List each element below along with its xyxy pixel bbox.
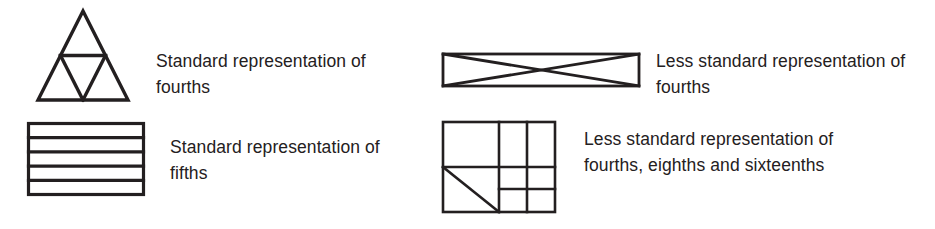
rectangle-mixed-fractions-figure — [441, 119, 559, 215]
triangle-midline-left — [61, 56, 84, 101]
triangle-midline-right — [83, 56, 106, 101]
caption-fourths-triangle: Standard representation of fourths — [156, 48, 401, 100]
mixed-diagonal-lower-left — [443, 167, 499, 212]
rectangle-x-fourths-svg — [441, 50, 643, 90]
caption-mixed-grid: Less standard representation of fourths,… — [584, 126, 854, 178]
rectangle-mixed-fractions-svg — [441, 119, 559, 215]
caption-fifths-bars: Standard representation of fifths — [170, 134, 415, 186]
fifths-outline — [29, 124, 144, 195]
rectangle-fifths-svg — [26, 121, 146, 197]
triangle-fourths-figure — [33, 6, 133, 106]
figure-sheet: Standard representation of fourths Stand… — [0, 0, 935, 229]
caption-fourths-x: Less standard representation of fourths — [656, 48, 911, 100]
triangle-fourths-svg — [33, 6, 133, 106]
rectangle-x-fourths-figure — [441, 50, 643, 90]
rectangle-fifths-figure — [26, 121, 146, 197]
